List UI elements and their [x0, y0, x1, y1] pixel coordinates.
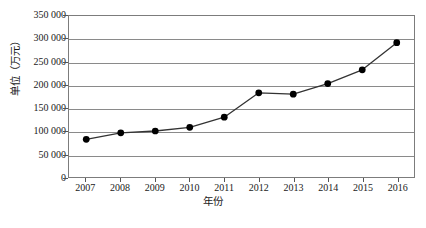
data-point-marker — [359, 66, 366, 73]
x-axis-tick-mark — [328, 178, 329, 182]
chart-figure: 单位（万元） 350 000300 000250 000200 000150 0… — [0, 0, 426, 228]
series-line — [86, 43, 397, 140]
y-axis-tick-mark — [63, 131, 68, 132]
x-axis-tick-mark — [294, 178, 295, 182]
y-axis-tick-label: 150 000 — [16, 103, 66, 113]
x-axis-tick-mark — [363, 178, 364, 182]
x-axis-tick-labels: 2007200820092010201120122013201420152016 — [0, 182, 426, 196]
y-axis-tick-label: 250 000 — [16, 57, 66, 67]
y-axis-tick-label: 300 000 — [16, 33, 66, 43]
plot-area — [68, 15, 415, 178]
line-series — [69, 16, 414, 177]
x-axis-tick-mark — [189, 178, 190, 182]
y-axis-tick-mark — [63, 62, 68, 63]
x-axis-tick-mark — [259, 178, 260, 182]
y-axis-tick-label: 50 000 — [16, 150, 66, 160]
data-point-marker — [186, 124, 193, 131]
x-axis-tick-mark — [120, 178, 121, 182]
data-point-marker — [255, 89, 262, 96]
data-point-marker — [221, 114, 228, 121]
y-axis-tick-mark — [63, 38, 68, 39]
data-point-marker — [290, 91, 297, 98]
x-axis-title: 年份 — [0, 196, 426, 208]
y-axis-tick-label: 200 000 — [16, 80, 66, 90]
y-axis-tick-label: 100 000 — [16, 126, 66, 136]
data-point-marker — [152, 128, 159, 135]
y-axis-tick-mark — [63, 15, 68, 16]
y-axis-tick-mark — [63, 155, 68, 156]
x-axis-tick-mark — [155, 178, 156, 182]
y-axis-tick-label: 350 000 — [16, 10, 66, 20]
x-axis-tick-mark — [224, 178, 225, 182]
data-point-marker — [117, 129, 124, 136]
x-axis-tick-label: 2016 — [376, 182, 420, 194]
y-axis-tick-mark — [63, 178, 68, 179]
x-axis-tick-mark — [398, 178, 399, 182]
data-point-marker — [83, 136, 90, 143]
y-axis-tick-mark — [63, 108, 68, 109]
x-axis-tick-mark — [85, 178, 86, 182]
y-axis-tick-mark — [63, 85, 68, 86]
data-point-marker — [324, 80, 331, 87]
data-point-marker — [393, 39, 400, 46]
